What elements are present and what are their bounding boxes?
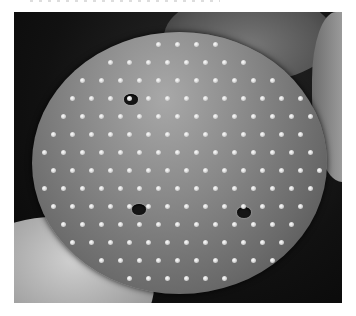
spine — [222, 168, 227, 173]
spine — [156, 42, 161, 47]
spine — [80, 186, 85, 191]
spine — [232, 150, 237, 155]
spine — [270, 222, 275, 227]
spine — [279, 168, 284, 173]
spine — [270, 186, 275, 191]
spine — [222, 96, 227, 101]
spine — [108, 132, 113, 137]
spine — [308, 186, 313, 191]
spine — [137, 186, 142, 191]
spine — [99, 186, 104, 191]
spine — [203, 204, 208, 209]
spine — [165, 96, 170, 101]
spine — [99, 258, 104, 263]
spine — [175, 222, 180, 227]
spine — [270, 114, 275, 119]
spine — [184, 96, 189, 101]
spine — [89, 204, 94, 209]
spine — [279, 204, 284, 209]
spine — [222, 60, 227, 65]
spine — [165, 240, 170, 245]
spine — [279, 240, 284, 245]
spine — [80, 78, 85, 83]
spine — [146, 132, 151, 137]
spine — [194, 114, 199, 119]
spine — [127, 132, 132, 137]
spine — [108, 96, 113, 101]
spine — [289, 186, 294, 191]
spine — [42, 186, 47, 191]
spine — [260, 168, 265, 173]
spine — [61, 186, 66, 191]
spine — [118, 78, 123, 83]
spine — [175, 42, 180, 47]
spine — [194, 186, 199, 191]
spine — [137, 222, 142, 227]
spine — [241, 132, 246, 137]
spine — [222, 204, 227, 209]
spine — [289, 114, 294, 119]
spine — [232, 186, 237, 191]
spine — [165, 132, 170, 137]
spine — [184, 276, 189, 281]
spine — [108, 204, 113, 209]
spine — [203, 168, 208, 173]
spine — [165, 60, 170, 65]
spine — [184, 168, 189, 173]
spine — [251, 78, 256, 83]
spine — [118, 258, 123, 263]
spine — [241, 240, 246, 245]
spine — [70, 240, 75, 245]
spine — [203, 96, 208, 101]
spine — [222, 240, 227, 245]
spine — [289, 222, 294, 227]
spine — [89, 132, 94, 137]
spine — [146, 276, 151, 281]
clipped-caption-text — [30, 0, 220, 2]
spine — [175, 186, 180, 191]
spine — [213, 258, 218, 263]
spine — [213, 42, 218, 47]
spine — [99, 222, 104, 227]
spine — [146, 168, 151, 173]
spine — [118, 114, 123, 119]
spine — [213, 114, 218, 119]
spine — [203, 60, 208, 65]
spine — [184, 204, 189, 209]
spine — [99, 150, 104, 155]
spine — [156, 114, 161, 119]
spine — [241, 204, 246, 209]
spine — [222, 132, 227, 137]
spine — [194, 78, 199, 83]
spine — [70, 132, 75, 137]
sem-micrograph — [14, 12, 342, 303]
spine — [137, 114, 142, 119]
spine — [89, 240, 94, 245]
spine — [260, 204, 265, 209]
spine — [146, 96, 151, 101]
spine — [175, 114, 180, 119]
spine — [251, 186, 256, 191]
spine — [194, 42, 199, 47]
spine — [270, 258, 275, 263]
spine — [42, 150, 47, 155]
spine — [270, 78, 275, 83]
spine — [118, 222, 123, 227]
spine — [298, 168, 303, 173]
spine — [317, 168, 322, 173]
spine — [70, 96, 75, 101]
pollen-grain — [32, 32, 327, 294]
spine — [308, 114, 313, 119]
spine — [127, 96, 132, 101]
spine — [146, 240, 151, 245]
spine — [279, 132, 284, 137]
spine — [70, 168, 75, 173]
spine — [80, 114, 85, 119]
spine — [61, 114, 66, 119]
spine — [289, 150, 294, 155]
spine — [108, 168, 113, 173]
spine — [194, 222, 199, 227]
spine — [156, 78, 161, 83]
spine — [70, 204, 75, 209]
spine — [99, 114, 104, 119]
